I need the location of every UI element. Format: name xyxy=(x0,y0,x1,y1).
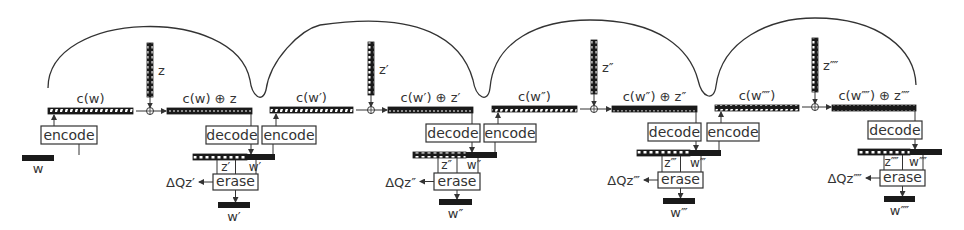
erase-box: erase xyxy=(213,173,258,190)
noise-bar-label: z″ xyxy=(602,60,614,75)
delta-q-label: ΔQz′ xyxy=(166,175,195,190)
code-bar xyxy=(270,107,353,113)
sum-bar xyxy=(612,106,697,112)
oplus-icon xyxy=(147,108,154,115)
decode-box: decode xyxy=(206,126,258,144)
code-bar xyxy=(492,106,577,112)
encode-box-label: encode xyxy=(43,127,94,143)
noise-bar xyxy=(147,43,153,97)
delta-q-label: ΔQz⁗ xyxy=(827,171,862,186)
noise-bar-label: z′ xyxy=(379,62,389,77)
feedback-arc-2 xyxy=(320,20,590,97)
mixed-noise-label: z″ xyxy=(441,158,452,172)
delta-q-label: ΔQz‴ xyxy=(607,173,640,188)
erase-box: erase xyxy=(880,169,925,186)
decode-box: decode xyxy=(648,123,701,141)
output-word-label: w″ xyxy=(448,206,464,221)
code-bar-label: c(w″) xyxy=(518,89,551,104)
stage-3: encodec(w″)z″c(w″) ⊕ z″decodez‴w‴eraseΔQ… xyxy=(484,40,721,220)
code-bar-label: c(w⁗) xyxy=(739,88,776,103)
encode-decode-chain-diagram: wencodec(w)zc(w) ⊕ zdecodez′w′eraseΔQz′w… xyxy=(0,0,964,230)
decode-box-label: decode xyxy=(649,124,700,140)
noise-bar xyxy=(812,38,818,92)
stage-2: encodec(w′)z′c(w′) ⊕ z′decodez″w″eraseΔQ… xyxy=(262,42,497,221)
code-bar xyxy=(715,105,799,111)
erase-box: erase xyxy=(434,173,480,190)
output-word-bar xyxy=(663,198,695,204)
noise-bar xyxy=(368,42,374,95)
sum-bar xyxy=(388,107,473,113)
output-word-bar xyxy=(884,196,915,202)
decode-box: decode xyxy=(426,124,480,142)
feedback-arc-1 xyxy=(48,25,320,97)
diagram-canvas: wencodec(w)zc(w) ⊕ zdecodez′w′eraseΔQz′w… xyxy=(0,0,964,230)
output-word-bar xyxy=(218,202,250,208)
encode-box: encode xyxy=(262,126,316,144)
decode-box-label: decode xyxy=(206,127,257,143)
delta-q-label: ΔQz″ xyxy=(385,175,416,190)
decoded-noise-segment xyxy=(193,154,247,160)
output-word-bar xyxy=(439,199,472,205)
encode-box-label: encode xyxy=(263,127,314,143)
output-word-label: w⁗ xyxy=(890,203,910,218)
oplus-icon xyxy=(591,106,598,113)
input-word-label: w xyxy=(33,161,44,176)
mixed-word-label: w‴ xyxy=(690,156,706,170)
mixed-word-label: w′ xyxy=(249,160,262,174)
code-bar-label: c(w) xyxy=(77,91,105,106)
erase-box-label: erase xyxy=(883,169,922,185)
sum-bar-label: c(w⁗) ⊕ z⁗ xyxy=(838,88,910,103)
encode-box: encode xyxy=(484,124,536,142)
decode-box-label: decode xyxy=(427,125,478,141)
sum-bar-label: c(w″) ⊕ z″ xyxy=(623,89,687,104)
output-word-label: w′ xyxy=(227,209,241,224)
erase-box-label: erase xyxy=(438,173,477,189)
feedback-arc-3 xyxy=(590,18,916,96)
stage-4: encodec(w⁗)z⁗c(w⁗) ⊕ z⁗decodez⁗w⁗eraseΔQ… xyxy=(707,38,942,218)
noise-bar-label: z xyxy=(158,63,165,78)
noise-bar-label: z⁗ xyxy=(823,58,839,73)
sum-bar-label: c(w) ⊕ z xyxy=(183,91,237,106)
feedback-arcs xyxy=(48,18,916,97)
erase-box-label: erase xyxy=(661,171,700,187)
oplus-icon xyxy=(368,107,375,114)
erase-box-label: erase xyxy=(216,173,255,189)
code-bar-label: c(w′) xyxy=(296,90,327,105)
mixed-word-label: w⁗ xyxy=(909,155,927,169)
encode-box-label: encode xyxy=(484,125,535,141)
decoded-noise-segment xyxy=(413,152,466,158)
mixed-noise-label: z′ xyxy=(221,160,230,174)
stages: wencodec(w)zc(w) ⊕ zdecodez′w′eraseΔQz′w… xyxy=(22,38,942,224)
mixed-noise-label: z‴ xyxy=(664,156,677,170)
encode-box: encode xyxy=(41,126,97,144)
encode-box-label: encode xyxy=(707,124,758,140)
stage-1: wencodec(w)zc(w) ⊕ zdecodez′w′eraseΔQz′w… xyxy=(22,43,275,224)
mixed-noise-label: z⁗ xyxy=(884,155,898,169)
sum-bar xyxy=(832,105,916,111)
sum-bar xyxy=(167,108,252,114)
sum-bar-label: c(w′) ⊕ z′ xyxy=(401,90,461,105)
oplus-icon xyxy=(812,104,819,111)
decode-box-label: decode xyxy=(869,122,920,138)
erase-box: erase xyxy=(658,171,703,188)
output-word-label: w‴ xyxy=(670,205,688,220)
encode-box: encode xyxy=(707,123,759,141)
noise-bar xyxy=(591,40,597,94)
decode-box: decode xyxy=(868,121,922,139)
code-bar xyxy=(48,108,133,114)
mixed-word-label: w″ xyxy=(467,158,482,172)
